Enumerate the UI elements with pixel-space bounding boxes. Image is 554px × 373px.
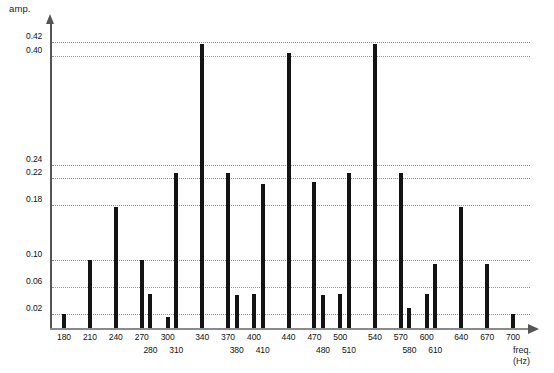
bar — [485, 264, 489, 328]
x-tick-label: 670 — [474, 332, 500, 342]
bar — [312, 182, 316, 328]
bar — [399, 173, 403, 328]
x-tick-label: 480 — [310, 345, 336, 355]
y-tick-label: 0.10 — [26, 249, 42, 259]
bar — [407, 308, 411, 328]
bar — [261, 184, 265, 328]
bar — [140, 260, 144, 328]
y-axis-title: amp. — [9, 3, 31, 14]
bar — [114, 207, 118, 328]
bar — [235, 295, 239, 328]
x-tick-label: 540 — [362, 332, 388, 342]
bar — [166, 317, 170, 328]
bar — [511, 314, 515, 328]
x-tick-label: 210 — [77, 332, 103, 342]
frequency-spectrum-chart: amp. 0.020.060.100.180.220.240.400.42 18… — [0, 0, 554, 373]
bar — [425, 294, 429, 328]
bar — [226, 173, 230, 328]
x-axis-line — [50, 328, 530, 330]
x-tick-label: 310 — [163, 345, 189, 355]
x-tick-label: 700 — [500, 332, 526, 342]
x-tick-label: 280 — [137, 345, 163, 355]
y-tick-label: 0.24 — [26, 154, 42, 164]
bar — [338, 294, 342, 328]
x-tick-label: 570 — [388, 332, 414, 342]
x-tick-label: 640 — [448, 332, 474, 342]
bar — [252, 294, 256, 328]
y-tick-label: 0.02 — [26, 303, 42, 313]
x-tick-label: 270 — [129, 332, 155, 342]
x-axis-title-text: freq. — [513, 345, 531, 355]
x-tick-label: 470 — [301, 332, 327, 342]
x-tick-label: 240 — [103, 332, 129, 342]
bar — [200, 44, 204, 328]
x-tick-label: 180 — [51, 332, 77, 342]
bar — [62, 314, 66, 328]
y-tick-label: 0.06 — [26, 276, 42, 286]
y-tick-label: 0.22 — [26, 167, 42, 177]
bar — [459, 207, 463, 328]
gridline — [52, 42, 530, 43]
gridline — [52, 56, 530, 57]
x-tick-label: 610 — [422, 345, 448, 355]
bar — [287, 53, 291, 328]
y-tick-label: 0.18 — [26, 194, 42, 204]
x-tick-label: 600 — [414, 332, 440, 342]
x-tick-label: 400 — [241, 332, 267, 342]
x-tick-label: 300 — [155, 332, 181, 342]
bar — [321, 295, 325, 328]
x-tick-label: 380 — [224, 345, 250, 355]
caption-strip — [0, 358, 554, 373]
bar — [174, 173, 178, 328]
x-tick-label: 440 — [276, 332, 302, 342]
y-axis-line — [50, 22, 52, 328]
x-tick-label: 370 — [215, 332, 241, 342]
y-tick-label: 0.42 — [26, 31, 42, 41]
gridline — [52, 165, 530, 166]
x-tick-label: 340 — [189, 332, 215, 342]
bar — [373, 44, 377, 328]
x-axis-arrow-icon — [528, 324, 539, 334]
x-tick-label: 510 — [336, 345, 362, 355]
bar — [347, 173, 351, 328]
bar — [88, 260, 92, 328]
y-tick-label: 0.40 — [26, 45, 42, 55]
x-tick-label: 500 — [327, 332, 353, 342]
bar — [148, 294, 152, 328]
bar — [433, 264, 437, 328]
x-tick-label: 580 — [396, 345, 422, 355]
gridline — [52, 178, 530, 179]
x-tick-label: 410 — [250, 345, 276, 355]
